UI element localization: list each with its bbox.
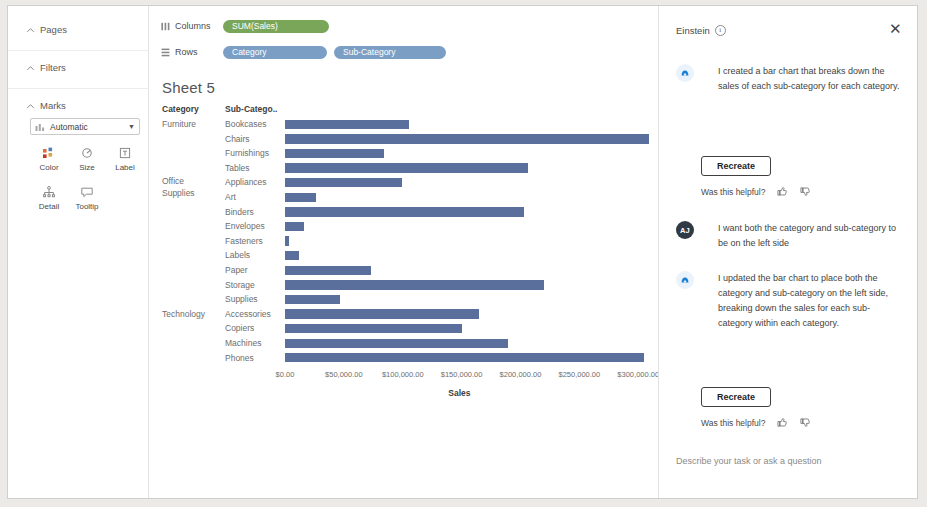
table-row: TechnologyAccessories bbox=[149, 307, 650, 322]
message-assistant-2: I updated the bar chart to place both th… bbox=[676, 271, 901, 331]
bar-mark-icon bbox=[35, 122, 46, 132]
row-subcategory-label: Chairs bbox=[225, 132, 281, 147]
filters-shelf-header[interactable]: Filters bbox=[26, 62, 66, 73]
bar-track bbox=[285, 248, 650, 263]
rows-shelf[interactable]: Rows Category Sub-Category bbox=[161, 44, 658, 60]
bar[interactable] bbox=[285, 149, 384, 158]
close-icon[interactable]: ✕ bbox=[887, 21, 903, 37]
mark-type-select[interactable]: Automatic ▼ bbox=[30, 118, 140, 135]
pill-sum-sales[interactable]: SUM(Sales) bbox=[223, 20, 329, 33]
bar[interactable] bbox=[285, 222, 304, 231]
row-subcategory-label: Copiers bbox=[225, 321, 281, 336]
bar-track bbox=[285, 132, 650, 147]
thumbs-up-icon[interactable] bbox=[777, 186, 788, 197]
table-row: FurnitureBookcases bbox=[149, 117, 650, 132]
chevron-up-icon bbox=[26, 64, 34, 72]
task-composer-input[interactable]: Describe your task or ask a question bbox=[676, 454, 901, 468]
thumbs-up-icon[interactable] bbox=[777, 417, 788, 428]
feedback-label: Was this helpful? bbox=[701, 418, 765, 428]
bar-track bbox=[285, 205, 650, 220]
rows-label: Rows bbox=[175, 47, 198, 57]
pill-sub-category[interactable]: Sub-Category bbox=[334, 46, 446, 59]
size-button[interactable]: Size bbox=[68, 146, 106, 172]
bar-track bbox=[285, 161, 650, 176]
einstein-avatar-icon bbox=[676, 271, 694, 289]
detail-button[interactable]: Detail bbox=[30, 185, 68, 211]
pill-category[interactable]: Category bbox=[223, 46, 327, 59]
x-axis-tick: $250,000.00 bbox=[558, 370, 600, 379]
columns-shelf-label-group: Columns bbox=[161, 21, 223, 31]
row-subcategory-label: Paper bbox=[225, 263, 281, 278]
header-category: Category bbox=[162, 104, 199, 114]
message-assistant-1: I created a bar chart that breaks down t… bbox=[676, 64, 901, 94]
bar[interactable] bbox=[285, 193, 316, 202]
label-icon bbox=[118, 146, 132, 160]
left-sidebar: Pages Filters Marks Automati bbox=[8, 6, 149, 498]
x-axis-tick: $200,000.00 bbox=[500, 370, 542, 379]
marks-card-header[interactable]: Marks bbox=[26, 100, 66, 111]
header-sub-category: Sub-Catego.. bbox=[225, 104, 277, 114]
bar[interactable] bbox=[285, 295, 340, 304]
row-subcategory-label: Accessories bbox=[225, 307, 281, 322]
einstein-title: Einstein bbox=[676, 25, 710, 36]
visualization-area: Columns SUM(Sales) Rows Category bbox=[149, 6, 658, 498]
bar[interactable] bbox=[285, 266, 371, 275]
user-avatar: AJ bbox=[676, 221, 694, 239]
row-subcategory-label: Phones bbox=[225, 351, 281, 366]
einstein-panel: Einstein i ✕ I created a bar chart that … bbox=[658, 6, 917, 498]
message-user-1: AJ I want both the category and sub-cate… bbox=[676, 221, 901, 251]
tooltip-button-label: Tooltip bbox=[75, 202, 98, 211]
table-row: OfficeSuppliesAppliances bbox=[149, 175, 650, 190]
marks-card-label: Marks bbox=[40, 100, 66, 111]
filters-shelf-label: Filters bbox=[40, 62, 66, 73]
pages-shelf-header[interactable]: Pages bbox=[26, 24, 67, 35]
row-subcategory-label: Labels bbox=[225, 248, 281, 263]
bar[interactable] bbox=[285, 134, 649, 143]
recreate-button-2[interactable]: Recreate bbox=[701, 387, 771, 407]
bar[interactable] bbox=[285, 353, 644, 362]
chart-column-headers: Category Sub-Catego.. bbox=[149, 104, 650, 117]
size-icon bbox=[80, 146, 94, 160]
bar[interactable] bbox=[285, 236, 289, 245]
bar-chart: Category Sub-Catego.. FurnitureBookcases… bbox=[149, 104, 650, 498]
message-text: I want both the category and sub-categor… bbox=[718, 221, 901, 251]
thumbs-down-icon[interactable] bbox=[800, 417, 811, 428]
bar-track bbox=[285, 292, 650, 307]
x-axis-tick: $100,000.00 bbox=[382, 370, 424, 379]
row-subcategory-label: Appliances bbox=[225, 175, 281, 190]
rows-shelf-label-group: Rows bbox=[161, 47, 223, 57]
detail-button-label: Detail bbox=[39, 202, 59, 211]
x-axis-title: Sales bbox=[285, 388, 650, 398]
bar-track bbox=[285, 146, 650, 161]
bar[interactable] bbox=[285, 309, 479, 318]
tooltip-button[interactable]: Tooltip bbox=[68, 185, 106, 211]
thumbs-down-icon[interactable] bbox=[800, 186, 811, 197]
color-button-label: Color bbox=[39, 163, 58, 172]
recreate-button-1[interactable]: Recreate bbox=[701, 156, 771, 176]
columns-label: Columns bbox=[175, 21, 211, 31]
bar[interactable] bbox=[285, 251, 299, 260]
bar[interactable] bbox=[285, 324, 462, 333]
bar-track bbox=[285, 278, 650, 293]
bar[interactable] bbox=[285, 207, 524, 216]
feedback-row-1: Was this helpful? bbox=[701, 186, 811, 197]
label-button[interactable]: Label bbox=[106, 146, 144, 172]
columns-icon bbox=[161, 22, 170, 31]
table-row: Envelopes bbox=[149, 219, 650, 234]
bar[interactable] bbox=[285, 339, 508, 348]
columns-shelf[interactable]: Columns SUM(Sales) bbox=[161, 18, 658, 34]
bar-track bbox=[285, 175, 650, 190]
feedback-label: Was this helpful? bbox=[701, 187, 765, 197]
bar[interactable] bbox=[285, 280, 544, 289]
chart-rows: FurnitureBookcasesChairsFurnishingsTable… bbox=[149, 117, 650, 365]
bar-track bbox=[285, 190, 650, 205]
table-row: Machines bbox=[149, 336, 650, 351]
info-icon[interactable]: i bbox=[715, 25, 726, 36]
bar[interactable] bbox=[285, 163, 528, 172]
bar[interactable] bbox=[285, 120, 409, 129]
bar-track bbox=[285, 263, 650, 278]
color-button[interactable]: Color bbox=[30, 146, 68, 172]
table-row: Tables bbox=[149, 161, 650, 176]
bar[interactable] bbox=[285, 178, 402, 187]
row-subcategory-label: Art bbox=[225, 190, 281, 205]
